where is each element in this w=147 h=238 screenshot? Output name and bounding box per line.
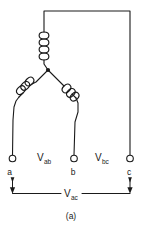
coil-left-icon bbox=[17, 77, 34, 97]
figure-container: a b c V ab V bc bbox=[0, 0, 147, 238]
coil-top-icon bbox=[39, 32, 49, 70]
left-branch-conductor bbox=[13, 70, 49, 155]
figure-caption: (a) bbox=[66, 211, 77, 221]
vac-arrowhead-right bbox=[127, 187, 132, 194]
terminal-c-circle bbox=[127, 155, 134, 162]
vac-tick-arrow-right bbox=[128, 177, 132, 182]
vbc-subscript: bc bbox=[102, 158, 110, 165]
terminal-a-circle bbox=[9, 155, 16, 162]
terminal-label-a: a bbox=[7, 167, 12, 177]
top-conductor-path bbox=[44, 11, 130, 155]
vbc-symbol: V bbox=[95, 152, 102, 163]
vac-symbol: V bbox=[64, 188, 71, 199]
vac-tick-arrow-left bbox=[11, 177, 15, 182]
vab-subscript: ab bbox=[44, 158, 52, 165]
voltage-label-vab: V ab bbox=[37, 152, 52, 165]
terminal-label-b: b bbox=[71, 167, 76, 177]
terminal-label-c: c bbox=[127, 167, 132, 177]
voltage-label-vac: V ac bbox=[64, 188, 79, 201]
middle-branch-conductor bbox=[48, 70, 78, 155]
vac-arrowhead-left bbox=[10, 187, 15, 194]
terminal-b-circle bbox=[71, 155, 78, 162]
vab-symbol: V bbox=[37, 152, 44, 163]
circuit-diagram: a b c V ab V bc bbox=[0, 0, 147, 238]
vac-dimension-line bbox=[13, 179, 131, 194]
vac-subscript: ac bbox=[71, 194, 79, 201]
voltage-label-vbc: V bc bbox=[95, 152, 110, 165]
